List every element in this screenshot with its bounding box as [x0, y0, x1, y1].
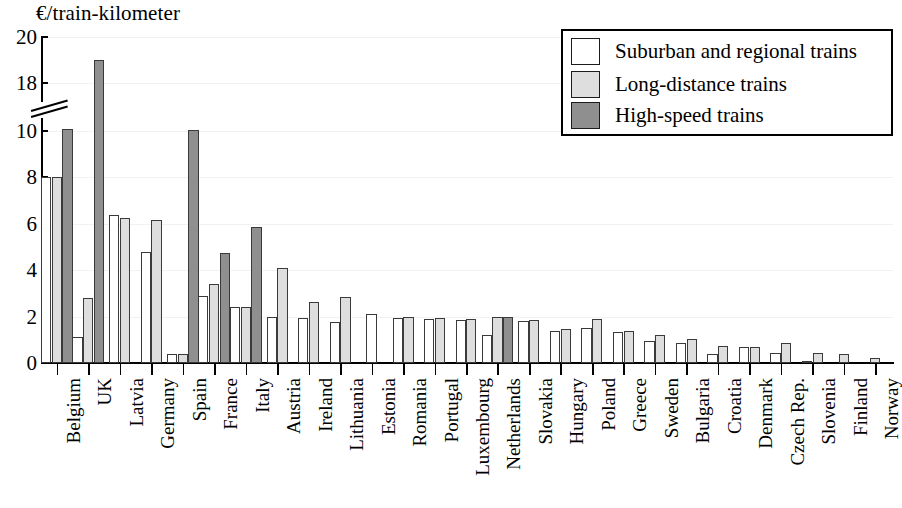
x-axis-label: Estonia: [379, 378, 398, 435]
legend-swatch-icon: [571, 38, 600, 65]
bar: [188, 130, 198, 363]
x-tick-mark: [844, 364, 846, 375]
x-tick-mark: [529, 364, 531, 375]
bar: [330, 322, 340, 363]
legend-item-high-speed: High-speed trains: [571, 100, 764, 130]
y-tick-label: 4: [3, 260, 37, 281]
x-tick-mark: [497, 364, 499, 375]
bar: [613, 332, 623, 363]
y-tick-label: 8: [3, 167, 37, 188]
x-tick-mark: [340, 364, 342, 375]
x-tick-mark: [309, 364, 311, 375]
x-tick-mark: [88, 364, 90, 375]
legend-label: High-speed trains: [615, 105, 764, 126]
y-tick-label: 18: [3, 73, 37, 94]
x-axis-label: France: [221, 378, 240, 430]
y-tick-label: 6: [3, 213, 37, 234]
y-tick-label: 0: [3, 353, 37, 374]
legend-item-suburban: Suburban and regional trains: [571, 36, 857, 66]
bar: [644, 341, 654, 363]
bar: [435, 318, 445, 363]
bar: [870, 358, 880, 363]
bar: [739, 347, 749, 363]
x-axis-label: Norway: [882, 378, 901, 439]
x-tick-mark: [151, 364, 153, 375]
bar: [72, 337, 82, 363]
bar: [220, 253, 230, 363]
x-axis-label: Greece: [630, 378, 649, 432]
x-tick-mark: [435, 364, 437, 375]
x-tick-mark: [372, 364, 374, 375]
y-tick-label: 10: [3, 121, 37, 142]
x-axis-label: Denmark: [756, 378, 775, 449]
bar: [550, 331, 560, 363]
x-axis-label: Netherlands: [504, 378, 523, 470]
bar: [178, 354, 188, 363]
x-tick-mark: [655, 364, 657, 375]
bar: [230, 307, 240, 363]
bar: [120, 218, 130, 363]
x-tick-mark: [592, 364, 594, 375]
x-tick-mark: [686, 364, 688, 375]
bar: [167, 354, 177, 363]
x-axis-label: Poland: [599, 378, 618, 431]
x-axis-label: Croatia: [725, 378, 744, 434]
y-tick-label: 20: [3, 27, 37, 48]
x-tick-mark: [277, 364, 279, 375]
x-axis-label: Luxembourg: [473, 378, 492, 476]
x-tick-mark: [749, 364, 751, 375]
x-axis-label: Latvia: [127, 378, 146, 427]
bar: [366, 314, 376, 363]
x-tick-mark: [57, 364, 59, 375]
bar: [277, 268, 287, 363]
x-tick-mark: [120, 364, 122, 375]
x-tick-mark: [812, 364, 814, 375]
bar: [62, 129, 72, 363]
bar: [624, 331, 634, 363]
x-axis-label: Romania: [410, 378, 429, 447]
x-axis-label: Austria: [284, 378, 303, 434]
bar: [241, 307, 251, 363]
x-axis-label: Slovakia: [536, 378, 555, 445]
x-tick-mark: [875, 364, 877, 375]
x-tick-mark: [623, 364, 625, 375]
bar: [340, 297, 350, 363]
bar: [503, 317, 513, 363]
bar: [141, 252, 151, 363]
x-tick-mark: [466, 364, 468, 375]
x-axis-label: Sweden: [662, 378, 681, 438]
bar: [707, 354, 717, 363]
x-tick-mark: [718, 364, 720, 375]
y-tick-label: 2: [3, 306, 37, 327]
legend-item-long-distance: Long-distance trains: [571, 69, 787, 99]
legend: Suburban and regional trains Long-distan…: [561, 29, 893, 136]
x-axis-label: Belgium: [64, 378, 83, 443]
legend-label: Long-distance trains: [615, 74, 787, 95]
bar: [403, 317, 413, 363]
x-axis-label: Lithuania: [347, 378, 366, 451]
x-axis-label: Spain: [190, 378, 209, 421]
bar: [52, 177, 62, 363]
x-tick-mark: [183, 364, 185, 375]
x-axis-label: Czech Rep.: [788, 378, 807, 466]
x-tick-mark: [403, 364, 405, 375]
bar: [655, 335, 665, 363]
x-axis-label: Italy: [253, 378, 272, 413]
bar: [750, 347, 760, 363]
bar: [151, 220, 161, 363]
bar: [839, 354, 849, 363]
x-tick-mark: [781, 364, 783, 375]
x-axis-label: Germany: [158, 378, 177, 449]
bar: [482, 335, 492, 363]
x-axis-label: Finland: [851, 378, 870, 436]
x-axis-label: Ireland: [316, 378, 335, 432]
bar: [676, 343, 686, 363]
bar: [518, 321, 528, 363]
legend-swatch-icon: [571, 71, 600, 98]
y-axis-title: €/train-kilometer: [36, 1, 180, 26]
x-axis-label: Bulgaria: [693, 378, 712, 443]
bar: [687, 339, 697, 363]
x-tick-mark: [560, 364, 562, 375]
bar: [581, 328, 591, 363]
